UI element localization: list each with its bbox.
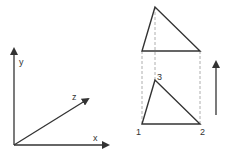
vertex-label-2: 2 (200, 127, 205, 137)
top-triangle (142, 7, 200, 51)
vertex-label-3: 3 (157, 72, 162, 82)
bottom-triangle (142, 80, 200, 124)
x-axis-label: x (93, 133, 98, 143)
coordinate-axes: y x z (14, 49, 108, 145)
diagram-canvas: y x z 1 2 3 (0, 0, 231, 154)
y-axis-label: y (19, 57, 24, 67)
z-axis-label: z (72, 92, 77, 102)
vertex-label-1: 1 (136, 127, 141, 137)
projection-lines (142, 7, 200, 124)
z-axis-arrow (14, 99, 88, 145)
